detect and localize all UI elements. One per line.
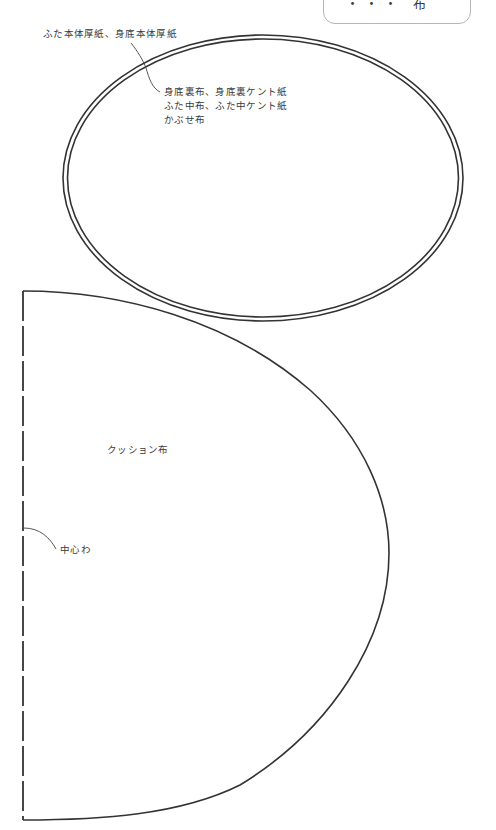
- oval-inner-outline: [68, 39, 459, 317]
- cushion-label: クッション布: [107, 443, 169, 457]
- oval-inner-label-line-1: 身底裏布、身底裏ケント紙: [164, 85, 288, 99]
- oval-inner-label-line-3: かぶせ布: [164, 113, 205, 127]
- oval-inner-label-line-2: ふた中布、ふた中ケント紙: [164, 99, 288, 113]
- oval-outer-label: ふた本体厚紙、身底本体厚紙: [43, 27, 177, 41]
- center-fold-label: 中心わ: [60, 543, 91, 557]
- oval-outer-outline: [63, 35, 463, 321]
- oval-pattern-piece: [63, 35, 463, 321]
- center-fold-leader-line: [24, 528, 56, 549]
- pattern-drawing: [0, 0, 496, 830]
